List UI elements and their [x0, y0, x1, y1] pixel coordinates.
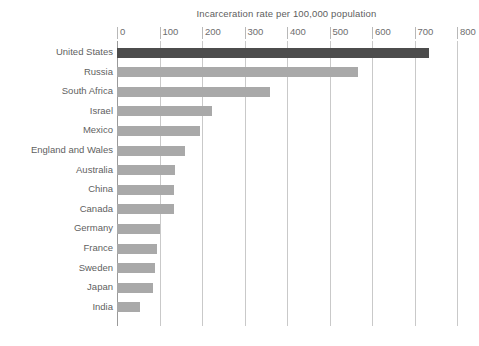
bar-row: France — [0, 239, 479, 259]
category-label: Australia — [76, 164, 113, 175]
bar-row: Japan — [0, 278, 479, 298]
bar — [117, 87, 270, 97]
incarceration-rate-bar-chart: Incarceration rate per 100,000 populatio… — [0, 0, 479, 346]
category-label: Russia — [84, 66, 113, 77]
bar-row: Israel — [0, 102, 479, 122]
bar — [117, 67, 358, 77]
bar — [117, 204, 174, 214]
bar — [117, 302, 140, 312]
category-label: South Africa — [62, 85, 113, 96]
bar — [117, 126, 200, 136]
bar-rows: United StatesRussiaSouth AfricaIsraelMex… — [0, 41, 479, 326]
bar-row: Australia — [0, 161, 479, 181]
category-label: France — [83, 242, 113, 253]
category-label: Israel — [90, 105, 113, 116]
bar-row: United States — [0, 43, 479, 63]
bar-row: India — [0, 298, 479, 318]
bar — [117, 185, 174, 195]
x-axis-tick-label: 0 — [117, 26, 125, 37]
x-axis-tick-labels: 0100200300400500600700800 — [0, 26, 479, 40]
x-axis-tick-label: 700 — [415, 26, 434, 37]
category-label: Mexico — [83, 124, 113, 135]
bar — [117, 165, 175, 175]
bar — [117, 48, 429, 58]
bar-row: South Africa — [0, 82, 479, 102]
bar-row: Mexico — [0, 121, 479, 141]
category-label: United States — [56, 46, 113, 57]
bar — [117, 146, 185, 156]
bar-row: China — [0, 180, 479, 200]
category-label: India — [92, 301, 113, 312]
x-axis-tick-label: 400 — [287, 26, 306, 37]
bar-row: Sweden — [0, 259, 479, 279]
x-axis-tick-label: 600 — [372, 26, 391, 37]
x-axis-tick-label: 200 — [202, 26, 221, 37]
category-label: Canada — [80, 203, 113, 214]
category-label: Japan — [87, 281, 113, 292]
category-label: Germany — [74, 222, 113, 233]
bar — [117, 263, 155, 273]
x-axis-tick-label: 500 — [330, 26, 349, 37]
bar-row: England and Wales — [0, 141, 479, 161]
bar-row: Russia — [0, 63, 479, 83]
bar — [117, 224, 160, 234]
bar-row: Germany — [0, 219, 479, 239]
bar-row: Canada — [0, 200, 479, 220]
x-axis-tick-label: 800 — [457, 26, 476, 37]
bar — [117, 106, 212, 116]
bar — [117, 244, 157, 254]
x-axis-tick-label: 300 — [245, 26, 264, 37]
x-axis-tick-label: 100 — [160, 26, 179, 37]
category-label: England and Wales — [31, 144, 113, 155]
category-label: China — [88, 183, 113, 194]
plot-area: United StatesRussiaSouth AfricaIsraelMex… — [0, 41, 479, 326]
bar — [117, 283, 153, 293]
chart-title: Incarceration rate per 100,000 populatio… — [116, 8, 457, 19]
category-label: Sweden — [79, 262, 113, 273]
